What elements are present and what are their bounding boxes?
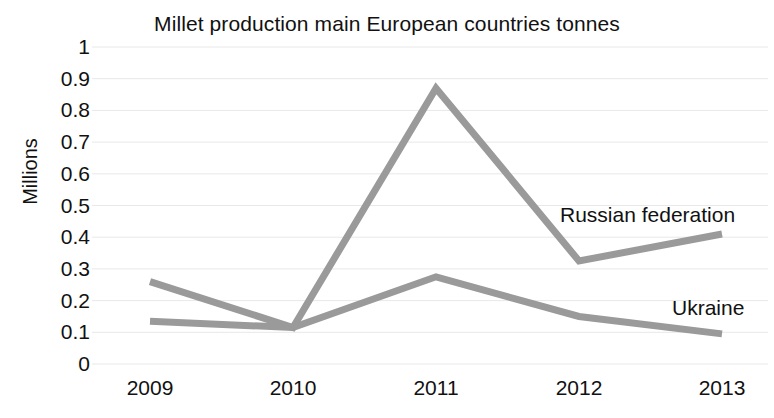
series-label-russian-federation: Russian federation	[560, 203, 735, 227]
x-tick-label: 2011	[413, 376, 458, 400]
x-tick-label: 2009	[127, 376, 174, 400]
x-tick-label: 2012	[556, 376, 603, 400]
chart-container: Millet production main European countrie…	[0, 0, 774, 418]
x-tick-label: 2010	[270, 376, 317, 400]
series-line[interactable]	[150, 277, 722, 334]
series-label-ukraine: Ukraine	[672, 296, 744, 320]
x-tick-label: 2013	[699, 376, 746, 400]
